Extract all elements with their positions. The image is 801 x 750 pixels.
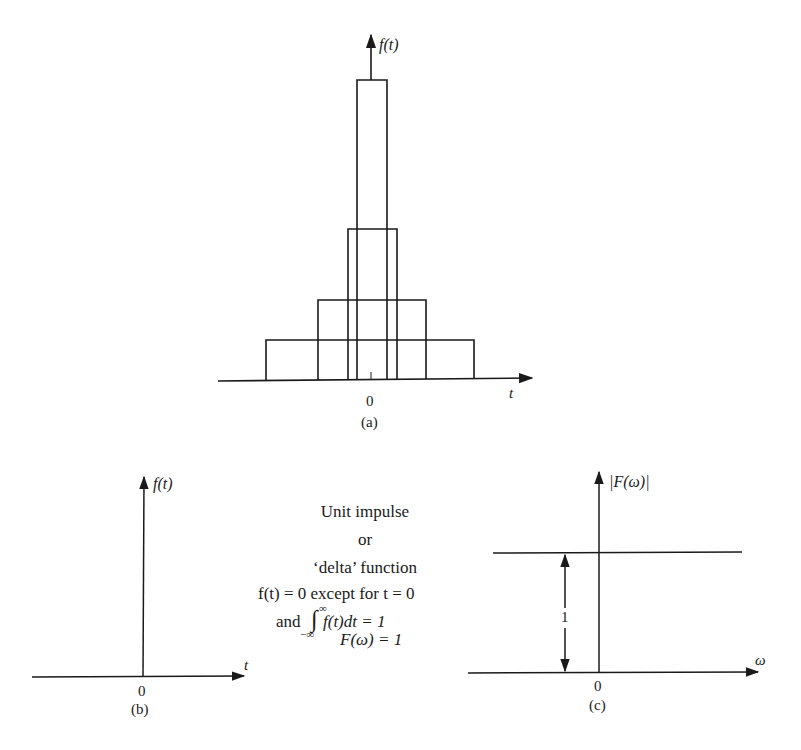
description-delta: ‘delta’ function [250, 558, 480, 586]
pulse-rectangles [266, 80, 474, 380]
description-transform: F(ω) = 1 [340, 630, 402, 650]
panel-b-impulse-line [143, 477, 144, 677]
panel-c-caption: (c) [589, 697, 606, 714]
pulse-rectangle-1 [266, 340, 474, 380]
panel-a-x-axis-label: t [509, 385, 513, 402]
panel-c-magnitude-label: 1 [561, 609, 569, 626]
pulse-rectangle-4 [357, 80, 387, 380]
description-definition: f(t) = 0 except for t = 0 [258, 584, 415, 604]
panel-b [32, 477, 244, 677]
panel-b-t-axis [32, 676, 244, 677]
panel-c-omega-axis [468, 672, 758, 673]
panel-c-x-axis-label: ω [755, 652, 766, 669]
panel-b-x-axis-label: t [244, 657, 248, 674]
panel-c-y-axis-label: |F(ω)| [609, 473, 650, 491]
integral-body: f(t)dt = 1 [323, 612, 385, 632]
panel-a [218, 35, 532, 381]
panel-a-y-axis-label-text: f(t) [379, 36, 399, 53]
impulse-description: Unit impulse or ‘delta’ function [250, 502, 480, 586]
description-definition-text: f(t) = 0 except for t = 0 [258, 584, 415, 603]
panel-a-t-axis [218, 378, 532, 381]
panel-a-caption: (a) [361, 414, 378, 431]
panel-a-origin-label: 0 [366, 393, 374, 410]
panel-b-origin-label: 0 [138, 683, 146, 700]
pulse-rectangle-3 [348, 229, 397, 380]
panel-c [468, 472, 758, 673]
description-title: Unit impulse [250, 502, 480, 530]
integral-lower-limit: −∞ [300, 628, 314, 640]
panel-c-origin-label: 0 [594, 678, 602, 695]
integral-prefix: and [276, 612, 301, 632]
description-or: or [250, 530, 480, 558]
panel-c-flat-spectrum-line [493, 552, 742, 553]
panel-b-y-axis-label: f(t) [153, 475, 173, 493]
panel-a-y-axis-label: f(t) [379, 36, 399, 54]
panel-b-caption: (b) [131, 701, 149, 718]
